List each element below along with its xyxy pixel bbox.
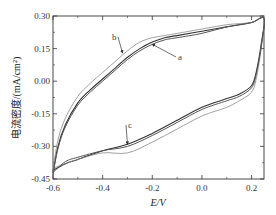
curve-a <box>53 17 265 172</box>
x-axis-label: E/V <box>150 197 168 208</box>
y-axis-label: 电流密度/(mA/cm²) <box>10 57 23 139</box>
cyclic-voltammogram-chart: -0.6-0.4-0.20.00.2 0.300.150.00-0.15-0.3… <box>0 0 276 215</box>
curve-label-a: a <box>178 52 182 62</box>
y-tick-label: 0.00 <box>34 76 50 86</box>
x-tick-label: -0.6 <box>46 183 61 193</box>
data-curves <box>53 17 265 175</box>
curve-label-b: b <box>112 32 117 42</box>
y-tick-label: -0.15 <box>31 109 50 119</box>
y-tick-label: 0.15 <box>34 44 50 54</box>
x-tick-label: 0.0 <box>196 183 208 193</box>
curve-c <box>53 17 265 175</box>
x-tick-label: 0.2 <box>246 183 257 193</box>
y-tick-label: 0.30 <box>34 11 50 21</box>
x-tick-label: -0.4 <box>96 183 111 193</box>
y-tick-label: -0.30 <box>31 141 50 151</box>
y-tick-label: -0.45 <box>31 174 50 184</box>
x-tick-label: -0.2 <box>145 183 159 193</box>
curve-annotations: abc <box>112 32 182 144</box>
curve-label-c: c <box>128 120 132 130</box>
